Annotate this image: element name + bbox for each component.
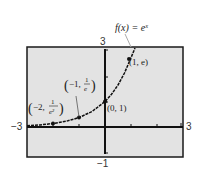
svg-text:(1, e): (1, e): [129, 57, 148, 67]
svg-text:e: e: [84, 85, 87, 93]
svg-text:−2,: −2,: [33, 102, 45, 112]
svg-text:e²: e²: [49, 108, 55, 116]
svg-text:): ): [59, 101, 64, 117]
svg-text:1: 1: [85, 76, 89, 84]
point-neg2: [51, 122, 55, 126]
svg-text:): ): [91, 78, 96, 94]
ymax-label: 3: [100, 36, 106, 47]
svg-text:−1,: −1,: [69, 79, 81, 89]
function-title: f(x) = eˣ: [115, 22, 149, 34]
xmin-label: −3: [11, 121, 23, 132]
xmax-label: 3: [186, 121, 192, 132]
exponential-graph: f(x) = eˣ 3 −1 −3 3 (1, e) (0, 1) ( −1, …: [0, 0, 200, 177]
label-point-0: (0, 1): [107, 103, 127, 113]
ymin-label: −1: [97, 158, 109, 169]
svg-text:(0, 1): (0, 1): [107, 103, 127, 113]
svg-text:1: 1: [51, 98, 55, 106]
leader-title: [125, 34, 131, 47]
label-point-1: (1, e): [129, 57, 148, 67]
